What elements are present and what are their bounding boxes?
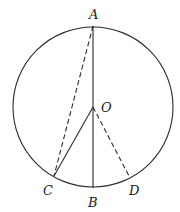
label-a: A [88, 7, 98, 22]
geometry-diagram: A O C B D [0, 0, 180, 212]
label-c: C [43, 183, 53, 198]
label-o: O [101, 100, 112, 115]
segment-ac-dashed [54, 26, 93, 176]
label-d: D [128, 183, 140, 198]
segment-oc-radius [54, 107, 93, 176]
segment-od-dashed [93, 107, 129, 176]
label-b: B [87, 195, 98, 210]
